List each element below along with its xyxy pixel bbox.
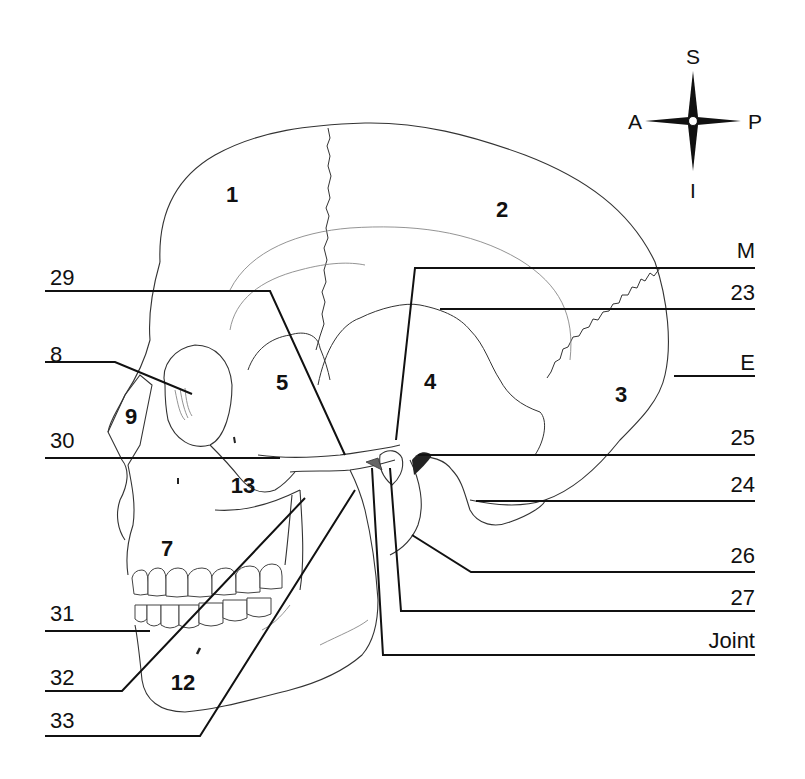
label-m: M — [737, 238, 755, 263]
label-23: 23 — [731, 280, 755, 305]
upper-teeth — [132, 564, 282, 597]
mastoid-outline — [418, 457, 545, 525]
label-24: 24 — [731, 472, 755, 497]
orbit-outline — [164, 345, 232, 446]
compass-label-anterior: A — [628, 110, 642, 133]
bone-number-5: 5 — [276, 370, 288, 395]
leader-line-26 — [412, 535, 755, 572]
label-30: 30 — [50, 428, 74, 453]
mental-foramen — [197, 648, 200, 654]
leader-line-joint — [372, 468, 755, 655]
bone-number-7: 7 — [161, 536, 173, 561]
mandible-ramus — [285, 490, 303, 590]
compass-label-posterior: P — [748, 110, 762, 133]
label-31: 31 — [50, 601, 74, 626]
compass-south-arm — [688, 121, 698, 171]
maxilla-outline — [127, 465, 300, 575]
compass-rose: S I A P — [628, 45, 762, 202]
leader-line-m — [396, 268, 755, 440]
bone-number-2: 2 — [496, 197, 508, 222]
infraorbital-foramen — [234, 437, 235, 443]
bone-number-1: 1 — [226, 182, 238, 207]
label-joint: Joint — [709, 628, 755, 653]
label-8: 8 — [50, 342, 62, 367]
bone-number-9: 9 — [125, 404, 137, 429]
lambdoid-suture — [547, 268, 660, 378]
label-26: 26 — [731, 543, 755, 568]
bone-number-4: 4 — [424, 369, 437, 394]
lower-teeth — [135, 598, 271, 628]
external-labels: 29830313233M23E25242627Joint — [50, 238, 755, 733]
bone-number-13: 13 — [231, 473, 255, 498]
label-32: 32 — [50, 665, 74, 690]
sphenoid-suture — [248, 333, 330, 380]
superior-temporal-line — [230, 227, 571, 360]
bone-number-12: 12 — [171, 670, 195, 695]
leader-line-8 — [45, 362, 192, 394]
compass-label-superior: S — [686, 45, 700, 68]
compass-north-arm — [688, 71, 698, 121]
label-29: 29 — [50, 265, 74, 290]
compass-center — [689, 117, 698, 126]
label-27: 27 — [731, 585, 755, 610]
zygomatic-arch — [258, 445, 400, 457]
leader-line-29 — [45, 291, 345, 455]
compass-west-arm — [645, 117, 693, 125]
compass-label-inferior: I — [690, 179, 696, 202]
cranium-outline — [160, 123, 669, 505]
label-33: 33 — [50, 708, 74, 733]
inferior-temporal-line — [230, 263, 365, 330]
leader-line-27 — [390, 468, 755, 611]
skull-illustration — [108, 123, 668, 712]
skull-lateral-view-diagram: 12345791213 29830313233M23E25242627Joint… — [0, 0, 805, 779]
coronal-suture — [316, 128, 331, 350]
label-e: E — [740, 350, 755, 375]
compass-east-arm — [693, 117, 741, 125]
leader-lines — [45, 268, 755, 736]
bone-number-3: 3 — [615, 382, 627, 407]
label-25: 25 — [731, 425, 755, 450]
